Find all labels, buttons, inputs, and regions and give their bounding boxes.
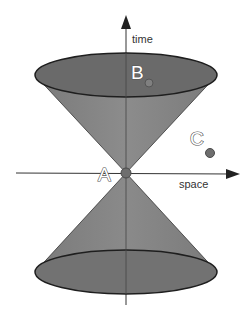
time-axis-label: time xyxy=(132,33,153,45)
point-c xyxy=(206,149,215,158)
point-b xyxy=(145,79,153,87)
point-a-label: A xyxy=(98,164,111,185)
space-axis-label: space xyxy=(179,178,208,190)
space-axis-arrowhead-icon xyxy=(226,169,240,179)
point-b-label: B xyxy=(131,62,144,83)
light-cone-diagram: time space A B C xyxy=(0,0,252,317)
time-axis-arrowhead-icon xyxy=(121,15,131,29)
point-a xyxy=(121,168,131,178)
point-c-label: C xyxy=(190,128,204,149)
